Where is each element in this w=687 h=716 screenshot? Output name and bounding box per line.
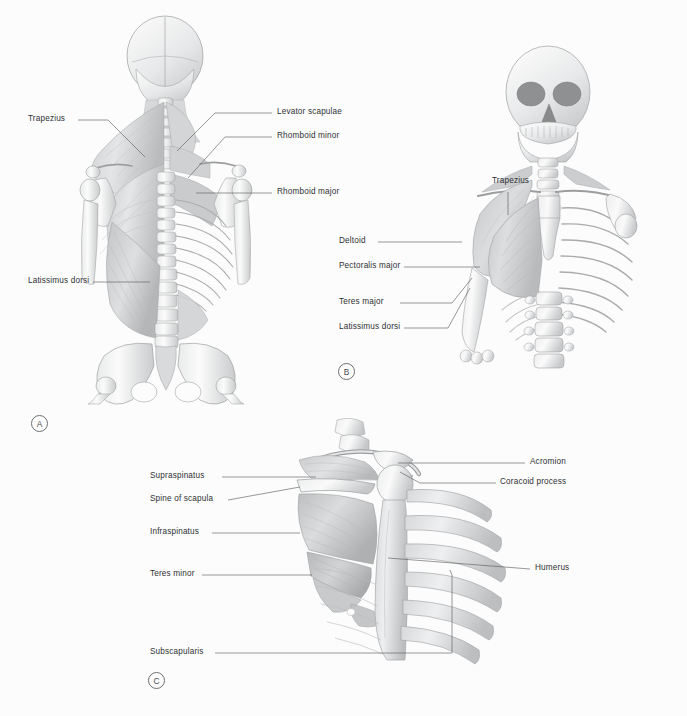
label-latissimus-dorsi-b: Latissimus dorsi	[339, 323, 400, 331]
label-teres-major: Teres major	[339, 298, 384, 306]
panel-c-illustration	[255, 418, 545, 680]
label-trapezius-b: Trapezius	[492, 177, 529, 185]
label-trapezius-a: Trapezius	[28, 115, 65, 123]
label-rhomboid-minor: Rhomboid minor	[277, 132, 339, 140]
label-spine-of-scapula: Spine of scapula	[150, 495, 213, 503]
label-coracoid-process: Coracoid process	[500, 478, 566, 486]
anatomy-plate: Trapezius Latissimus dorsi Levator scapu…	[0, 0, 687, 716]
label-infraspinatus: Infraspinatus	[150, 528, 199, 536]
panel-marker-c: C	[148, 672, 165, 689]
label-humerus: Humerus	[535, 564, 569, 572]
panel-a-illustration	[60, 14, 270, 404]
anterior-thorax-figure	[420, 40, 670, 380]
label-levator-scapulae: Levator scapulae	[277, 108, 342, 116]
label-latissimus-dorsi-a: Latissimus dorsi	[28, 277, 89, 285]
lateral-scapula-figure	[255, 418, 545, 680]
posterior-trunk-figure	[60, 14, 270, 404]
label-supraspinatus: Supraspinatus	[150, 472, 204, 480]
panel-marker-b: B	[338, 363, 355, 380]
label-pectoralis-major: Pectoralis major	[339, 262, 400, 270]
label-acromion: Acromion	[530, 458, 566, 466]
label-subscapularis: Subscapularis	[150, 648, 204, 656]
label-deltoid: Deltoid	[339, 237, 366, 245]
label-rhomboid-major: Rhomboid major	[277, 188, 339, 196]
panel-b-illustration	[420, 40, 670, 380]
label-teres-minor: Teres minor	[150, 570, 195, 578]
panel-marker-a: A	[31, 415, 48, 432]
